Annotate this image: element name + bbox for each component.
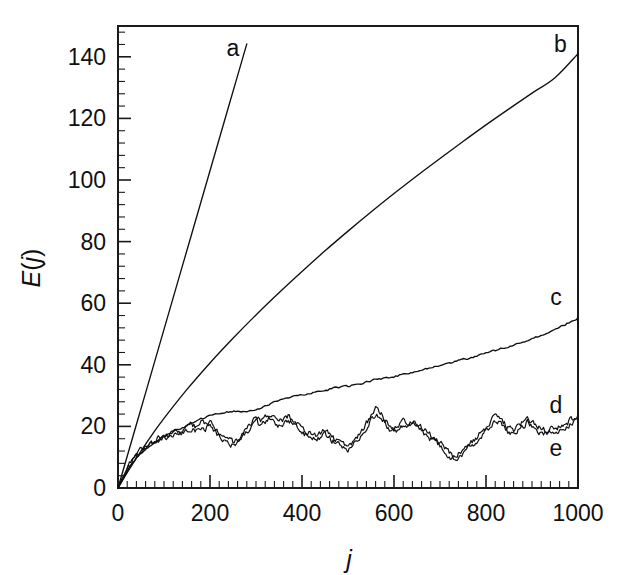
y-tick-label: 100 xyxy=(68,167,106,193)
y-tick-label: 60 xyxy=(80,290,106,316)
y-tick-label: 0 xyxy=(93,475,106,501)
curve-label-e: e xyxy=(550,435,563,461)
curve-label-c: c xyxy=(550,284,562,310)
x-tick-label: 1000 xyxy=(552,500,603,526)
curve-label-b: b xyxy=(554,31,567,57)
y-axis-title-text: E(j) xyxy=(17,249,45,288)
x-tick-label: 800 xyxy=(467,500,505,526)
x-tick-label: 600 xyxy=(375,500,413,526)
x-tick-label: 200 xyxy=(191,500,229,526)
curve-label-d: d xyxy=(550,392,563,418)
y-tick-label: 80 xyxy=(80,229,106,255)
y-axis-title: E(j) xyxy=(17,249,45,288)
y-tick-label: 20 xyxy=(80,413,106,439)
y-tick-label: 120 xyxy=(68,105,106,131)
y-tick-label: 40 xyxy=(80,352,106,378)
y-tick-label: 140 xyxy=(68,44,106,70)
energy-spectrum-chart: 02004006008001000 020406080100120140 abc… xyxy=(0,0,634,575)
figure-root: 02004006008001000 020406080100120140 abc… xyxy=(0,0,634,575)
x-tick-label: 0 xyxy=(112,500,125,526)
curve-label-a: a xyxy=(227,35,240,61)
x-tick-label: 400 xyxy=(283,500,321,526)
